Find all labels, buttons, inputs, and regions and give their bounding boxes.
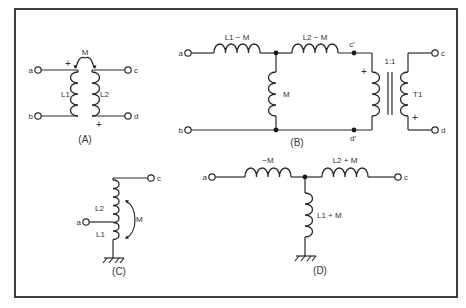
mutual-arrow-icon: [126, 201, 135, 238]
junction-dot: [303, 175, 308, 180]
caption-a: (A): [78, 134, 91, 145]
label-l1-minus-m: L1 − M: [225, 33, 250, 42]
ground-icon: [295, 256, 316, 261]
mutual-arrow-icon: [76, 57, 85, 68]
panel-c-autotransformer: c a L2 L1 M (C): [77, 174, 161, 277]
coupled-inductor-figure: a b c d L1 L2 M + + (A): [0, 0, 466, 308]
inductor-l1-plus-m-icon: [305, 193, 313, 237]
inductor-l2-minus-m-icon: [292, 44, 338, 53]
polarity-primary: +: [361, 66, 367, 77]
terminal-b: [35, 113, 41, 119]
label-a: a: [203, 173, 208, 182]
terminal-d: [432, 127, 438, 133]
label-c: c: [134, 66, 138, 75]
terminal-c: [395, 174, 401, 180]
inductor-l1-minus-m-icon: [214, 44, 260, 53]
terminal-a: [209, 174, 215, 180]
terminal-a: [83, 219, 89, 225]
label-t1: T1: [413, 90, 423, 99]
tapped-inductor-icon: [113, 180, 119, 240]
label-mutual: M: [82, 48, 89, 57]
label-l2: L2: [95, 204, 104, 213]
panel-d-t-equivalent: a c −M L2 + M L1 + M (D): [203, 156, 408, 276]
ground-icon: [103, 258, 124, 263]
terminal-c: [432, 50, 438, 56]
label-c: c: [157, 174, 161, 183]
polarity-bottom: +: [96, 119, 102, 130]
label-d: d: [441, 126, 445, 135]
node-c-prime-dot: [352, 51, 357, 56]
label-b: b: [29, 112, 34, 121]
label-l2-minus-m: L2 − M: [303, 33, 328, 42]
terminal-c: [125, 67, 131, 73]
label-l1: L1: [96, 230, 105, 239]
caption-d: (D): [313, 265, 327, 276]
label-d: d: [134, 112, 138, 121]
label-l1: L1: [61, 90, 70, 99]
label-b: b: [179, 126, 184, 135]
node-d-prime-dot: [352, 128, 357, 133]
label-a: a: [179, 49, 184, 58]
terminal-d: [125, 113, 131, 119]
junction-dot: [274, 51, 279, 56]
label-minus-m: −M: [262, 156, 274, 165]
inductor-l2-plus-m-icon: [322, 168, 368, 177]
terminal-a: [35, 67, 41, 73]
inductor-m-shunt-icon: [269, 72, 277, 116]
label-m: M: [136, 215, 143, 224]
caption-b: (B): [290, 137, 303, 148]
label-c: c: [404, 173, 408, 182]
polarity-secondary: +: [412, 112, 418, 123]
terminal-a: [185, 50, 191, 56]
label-ratio: 1:1: [384, 57, 396, 66]
caption-c: (C): [112, 266, 126, 277]
transformer-secondary-icon: [401, 72, 409, 116]
label-l1-plus-m: L1 + M: [317, 211, 342, 220]
label-l2-plus-m: L2 + M: [333, 156, 358, 165]
label-c: c: [441, 49, 445, 58]
transformer-primary-icon: [372, 72, 380, 116]
terminal-b: [185, 127, 191, 133]
label-c-prime: c': [349, 40, 355, 49]
label-a: a: [29, 66, 34, 75]
junction-dot: [274, 128, 279, 133]
terminal-c: [148, 175, 154, 181]
inductor-l2-icon: [92, 72, 100, 116]
label-l2: L2: [100, 90, 109, 99]
label-d-prime: d': [350, 134, 356, 143]
inductor-l1-icon: [71, 72, 79, 116]
label-m: M: [283, 90, 290, 99]
inductor-minus-m-icon: [245, 168, 291, 177]
panel-a-coupled-inductors: a b c d L1 L2 M + + (A): [29, 48, 139, 145]
panel-b-t-equivalent: a b c d L1 − M L2 − M M c' d' 1:1 T1 + +…: [179, 33, 446, 148]
label-a: a: [77, 218, 82, 227]
polarity-top: +: [65, 58, 71, 69]
